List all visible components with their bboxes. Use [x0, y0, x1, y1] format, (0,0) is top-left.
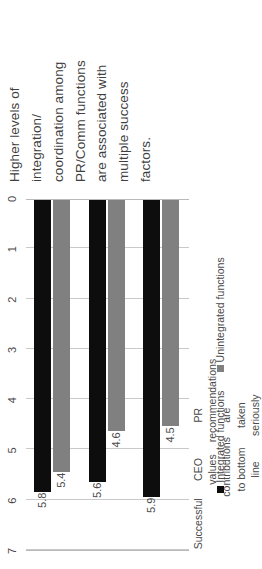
- bar-integrated: 5.6: [89, 200, 106, 482]
- title-line-6: multiple success: [113, 6, 135, 182]
- legend-item: Integrated functions: [214, 390, 226, 492]
- title-line-1: Higher levels of: [4, 6, 26, 182]
- value-tick-2: 2: [6, 288, 18, 312]
- legend-swatch-icon: [217, 365, 224, 372]
- category-label: CEO values contributionsto bottom line: [191, 442, 234, 496]
- value-tick-7: 7: [6, 539, 18, 563]
- bar-value-label: 4.5: [163, 427, 178, 449]
- bar-integrated: 5.8: [34, 200, 51, 492]
- chart-plot-region: 01234567 5.85.45.64.65.94.5 SuccessfulCE…: [6, 199, 228, 551]
- rotated-figure-wrapper: Higher levels of integration/ coordinati…: [0, 0, 234, 569]
- bar-value-label: 5.8: [35, 493, 50, 515]
- bar-value-label: 4.6: [109, 432, 124, 454]
- title-line-7: factors.: [135, 6, 157, 182]
- legend-swatch-icon: [217, 486, 224, 493]
- plot-area: 5.85.45.64.65.94.5: [26, 199, 189, 551]
- bar-unintegrated: 4.6: [108, 200, 125, 431]
- value-tick-4: 4: [6, 388, 18, 412]
- category-label-line: Successful: [191, 497, 205, 551]
- bar-integrated: 5.9: [143, 200, 160, 497]
- chart-legend: Integrated functionsUnintegrated functio…: [214, 199, 226, 551]
- bar-group: 5.94.5: [141, 200, 183, 552]
- value-tick-3: 3: [6, 338, 18, 362]
- value-tick-5: 5: [6, 438, 18, 462]
- bar-unintegrated: 5.4: [53, 200, 70, 472]
- value-tick-1: 1: [6, 237, 18, 261]
- bar-value-label: 5.6: [90, 483, 105, 505]
- category-label-line: CEO values contributions: [191, 442, 234, 496]
- legend-label: Unintegrated functions: [214, 257, 226, 362]
- value-axis-tick-labels: 01234567: [6, 199, 26, 551]
- bar-group: 5.64.6: [87, 200, 129, 552]
- legend-item: Unintegrated functions: [214, 257, 226, 372]
- title-line-3: coordination among: [48, 6, 70, 182]
- title-line-5: are associated with: [91, 6, 113, 182]
- category-label: PR recommendations aretaken seriously: [191, 388, 234, 442]
- bar-value-label: 5.9: [144, 498, 159, 520]
- legend-label: Integrated functions: [214, 390, 226, 482]
- value-tick-6: 6: [6, 489, 18, 513]
- title-line-4: PR/Comm functions: [70, 6, 92, 182]
- category-label: Successful: [191, 497, 205, 551]
- bar-value-label: 5.4: [54, 473, 69, 495]
- category-label-line: PR recommendations are: [191, 388, 234, 442]
- title-line-2: integration/: [26, 6, 48, 182]
- chart-title: Higher levels of integration/ coordinati…: [4, 6, 157, 182]
- value-tick-0: 0: [6, 187, 18, 211]
- chart-figure: Higher levels of integration/ coordinati…: [0, 0, 234, 569]
- bar-unintegrated: 4.5: [162, 200, 179, 426]
- bar-group: 5.85.4: [32, 200, 74, 552]
